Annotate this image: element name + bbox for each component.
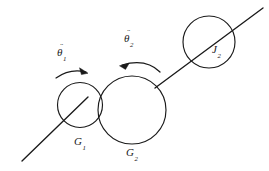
gear2-symbol: G [126, 146, 134, 158]
inertia2-circle [183, 16, 235, 68]
theta-1-subscript: 1 [63, 55, 66, 62]
diagram-canvas [0, 0, 269, 171]
inertia2-subscript: 2 [217, 52, 220, 59]
gear2-label: G2 [126, 147, 137, 161]
theta-1-double-dot-accent: ¨ [60, 42, 63, 51]
angular-acceleration-2-arrow [120, 63, 161, 72]
shaft-gear2-inertia2-line [155, 8, 263, 88]
shaft-gear1-line [22, 97, 88, 161]
gear1-label: G1 [74, 136, 85, 150]
inertia2-label: J2 [212, 44, 220, 58]
theta-2-subscript: 2 [130, 41, 133, 48]
gear1-subscript: 1 [82, 144, 85, 151]
theta-2-double-dot-accent: ¨ [127, 28, 130, 37]
angular-acceleration-1-label: θ¨1 [57, 47, 66, 61]
gear2-circle [98, 76, 166, 144]
gear-train-diagram: θ¨1 θ¨2 G1 G2 J2 [0, 0, 269, 171]
gear2-subscript: 2 [134, 155, 137, 162]
gear1-symbol: G [74, 135, 82, 147]
angular-acceleration-1-arrow [56, 68, 88, 78]
angular-acceleration-2-label: θ¨2 [124, 33, 133, 47]
